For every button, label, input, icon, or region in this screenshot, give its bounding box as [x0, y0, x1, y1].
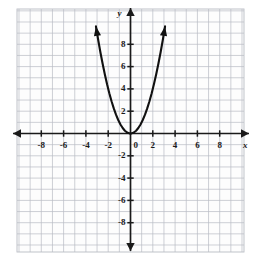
x-tick-label: -6 — [60, 141, 68, 150]
x-axis-label: x — [243, 141, 248, 150]
y-tick-label: -4 — [118, 174, 126, 183]
y-tick-label: 8 — [121, 40, 126, 49]
y-tick-label: -8 — [118, 218, 126, 227]
y-axis-label: y — [118, 9, 122, 18]
x-tick-label: 4 — [173, 141, 178, 150]
origin-label: 0 — [134, 141, 139, 150]
x-tick-label: -8 — [38, 141, 46, 150]
x-tick-label: 8 — [217, 141, 222, 150]
y-tick-label: 2 — [121, 107, 126, 116]
coordinate-plane-svg — [0, 0, 262, 272]
x-tick-label: 6 — [195, 141, 200, 150]
y-tick-label: 4 — [121, 84, 126, 93]
y-tick-label: -2 — [118, 151, 126, 160]
graph-figure: -8-6-4-224688642-2-4-6-80xy — [0, 0, 262, 272]
x-tick-label: 2 — [151, 141, 156, 150]
x-tick-label: -2 — [104, 141, 112, 150]
x-tick-label: -4 — [82, 141, 90, 150]
y-tick-label: 6 — [121, 62, 126, 71]
y-tick-label: -6 — [118, 196, 126, 205]
